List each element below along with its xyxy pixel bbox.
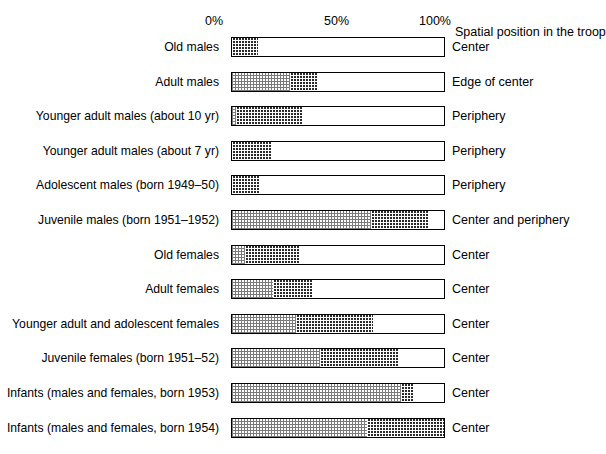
chart-row: Younger adult males (about 10 yr)Periphe…: [0, 105, 605, 127]
bar-segment-white: [399, 349, 445, 367]
stacked-bar: [231, 141, 445, 161]
row-label: Younger adult males (about 10 yr): [0, 105, 225, 127]
bar-segment-white: [260, 176, 445, 194]
bar-segment-dark: [290, 73, 318, 91]
row-position-label: Periphery: [452, 140, 506, 162]
row-position-label: Center: [452, 36, 490, 58]
row-position-label: Center: [452, 382, 490, 404]
bar-segment-dark: [371, 211, 429, 229]
bar-segment-dark: [273, 280, 314, 298]
row-label: Adolescent males (born 1949–50): [0, 174, 225, 196]
stacked-bar: [231, 383, 445, 403]
row-label: Adult males: [0, 71, 225, 93]
row-position-label: Periphery: [452, 174, 506, 196]
row-position-label: Periphery: [452, 105, 506, 127]
bar-segment-dark: [232, 142, 271, 160]
chart-row: Old femalesCenter: [0, 244, 605, 266]
bar-segment-dark: [232, 176, 260, 194]
bar-segment-white: [373, 315, 445, 333]
chart-row: Younger adult and adolescent femalesCent…: [0, 313, 605, 335]
bar-segment-light: [232, 384, 401, 402]
bar-segment-white: [318, 73, 445, 91]
axis-tick-100: 100%: [419, 14, 451, 28]
row-position-label: Center: [452, 417, 490, 439]
row-label: Infants (males and females, born 1954): [0, 417, 225, 439]
bar-segment-white: [303, 107, 445, 125]
axis-tick-0: 0%: [205, 14, 223, 28]
bar-segment-white: [258, 38, 445, 56]
row-position-label: Center: [452, 347, 490, 369]
row-label: Juvenile females (born 1951–52): [0, 347, 225, 369]
row-label: Adult females: [0, 278, 225, 300]
row-label: Old females: [0, 244, 225, 266]
bar-segment-light: [232, 73, 290, 91]
chart-row: Adult femalesCenter: [0, 278, 605, 300]
bar-segment-light: [232, 246, 245, 264]
bar-segment-dark: [320, 349, 399, 367]
stacked-bar: [231, 37, 445, 57]
chart-row: Adolescent males (born 1949–50)Periphery: [0, 174, 605, 196]
row-position-label: Center: [452, 313, 490, 335]
row-label: Younger adult and adolescent females: [0, 313, 225, 335]
bar-segment-dark: [245, 246, 301, 264]
bar-segment-white: [429, 211, 445, 229]
bar-segment-light: [232, 315, 296, 333]
axis-tick-50: 50%: [324, 14, 349, 28]
row-position-label: Center: [452, 278, 490, 300]
bar-segment-white: [271, 142, 445, 160]
stacked-bar: [231, 72, 445, 92]
bar-segment-light: [232, 211, 371, 229]
chart-row: Old malesCenter: [0, 36, 605, 58]
stacked-bar: [231, 348, 445, 368]
chart-row: Infants (males and females, born 1953)Ce…: [0, 382, 605, 404]
stacked-bar: [231, 279, 445, 299]
row-label: Old males: [0, 36, 225, 58]
row-position-label: Center: [452, 244, 490, 266]
row-position-label: Edge of center: [452, 71, 533, 93]
bar-segment-dark: [236, 107, 302, 125]
row-label: Younger adult males (about 7 yr): [0, 140, 225, 162]
bar-segment-dark: [401, 384, 414, 402]
chart-row: Juvenile females (born 1951–52)Center: [0, 347, 605, 369]
chart-row: Adult malesEdge of center: [0, 71, 605, 93]
row-label: Infants (males and females, born 1953): [0, 382, 225, 404]
bar-segment-dark: [296, 315, 373, 333]
bar-segment-white: [414, 384, 445, 402]
bar-segment-white: [300, 246, 445, 264]
chart-row: Infants (males and females, born 1954)Ce…: [0, 417, 605, 439]
stacked-bar: [231, 210, 445, 230]
bar-segment-light: [232, 349, 320, 367]
stacked-bar: [231, 106, 445, 126]
stacked-bar: [231, 245, 445, 265]
stacked-bar: [231, 418, 445, 438]
stacked-bar: [231, 175, 445, 195]
chart-row: Younger adult males (about 7 yr)Peripher…: [0, 140, 605, 162]
bar-segment-light: [232, 419, 367, 437]
row-position-label: Center and periphery: [452, 209, 569, 231]
bar-segment-dark: [367, 419, 445, 437]
chart-row: Juvenile males (born 1951–1952)Center an…: [0, 209, 605, 231]
stacked-bar: [231, 314, 445, 334]
bar-segment-light: [232, 280, 273, 298]
row-label: Juvenile males (born 1951–1952): [0, 209, 225, 231]
bar-segment-dark: [232, 38, 258, 56]
bar-segment-white: [313, 280, 445, 298]
